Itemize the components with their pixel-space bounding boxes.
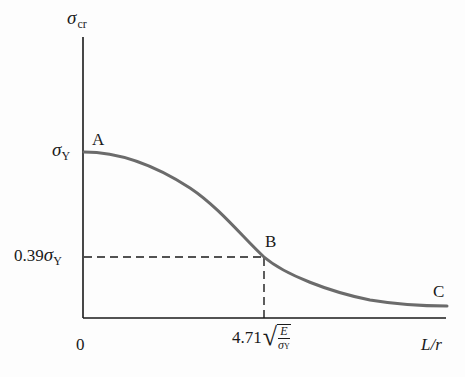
square-root-sign: √ [263,322,277,351]
point-label-a: A [92,131,104,148]
fraction: EσY [278,325,290,351]
y-tick-sigma-y: σY [52,140,70,159]
x-axis-label: L/r [421,336,442,353]
point-label-c: C [433,283,444,300]
x-tick-slenderness-limit: 4.71√EσY [232,324,291,351]
origin-label: 0 [76,336,85,353]
diagram-canvas [0,0,465,377]
y-axis-label: σcr [67,8,87,27]
radicand: EσY [277,324,291,351]
point-label-b: B [265,233,276,250]
critical-stress-curve [84,152,447,306]
y-tick-039-sigma-y: 0.39σY [14,245,62,264]
